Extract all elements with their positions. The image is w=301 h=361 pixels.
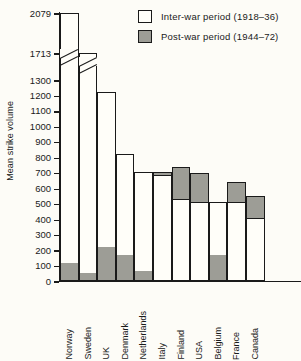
legend-swatch-post-war [138, 30, 152, 43]
bar-uk [97, 92, 116, 281]
y-tick-label: 1100 [5, 106, 51, 116]
segment-post-war [61, 263, 78, 279]
y-tick-label: 2079 [5, 9, 51, 19]
y-tick-mark [54, 235, 59, 236]
y-tick-mark [54, 173, 59, 174]
segment-post-war [228, 183, 245, 203]
x-axis-line [59, 281, 301, 282]
y-tick-mark [54, 80, 59, 81]
segment-post-war [191, 174, 208, 203]
segment-post-war [247, 197, 264, 219]
y-tick-label: 600 [5, 184, 51, 194]
y-tick-mark [54, 266, 59, 267]
bar-belgium [209, 202, 228, 281]
y-tick-label: 200 [5, 246, 51, 256]
y-tick-label: 0 [5, 277, 51, 287]
x-axis-label-text: Italy [153, 343, 172, 360]
y-tick-label: 1300 [5, 76, 51, 86]
y-tick-mark [54, 53, 59, 54]
x-axis-label-text: Canada [246, 328, 265, 360]
x-axis-label-italy: Italy [153, 286, 172, 360]
segment-post-war [80, 273, 97, 280]
x-axis-label-belgium: Belgium [209, 286, 228, 360]
x-axis-label-usa: USA [190, 286, 209, 360]
y-tick-label: 700 [5, 168, 51, 178]
segment-post-war [135, 271, 152, 280]
x-axis-label-netherlands: Netherlands [134, 286, 153, 360]
x-axis-label-text: France [227, 332, 246, 360]
y-tick-label: 300 [5, 230, 51, 240]
x-axis-label-text: Belgium [209, 327, 228, 360]
bar-denmark [116, 154, 135, 281]
x-axis-label-text: Netherlands [134, 311, 153, 360]
bar-finland [172, 167, 191, 281]
y-tick-label: 500 [5, 199, 51, 209]
legend-label-text: Post-war period (1944–72) [161, 31, 278, 42]
y-tick-mark [54, 111, 59, 112]
segment-post-war [154, 173, 171, 177]
segment-post-war [173, 168, 190, 200]
strike-volume-bar-chart: Mean strike volume 010020030040050060070… [0, 0, 301, 361]
segment-post-war [210, 255, 227, 280]
legend-item-post-war: Post-war period (1944–72) [138, 30, 279, 43]
x-axis-label-canada: Canada [246, 286, 265, 360]
x-axis-label-norway: Norway [60, 286, 79, 360]
bar-usa [190, 173, 209, 280]
bar-canada [246, 196, 265, 280]
y-tick-label: 1200 [5, 91, 51, 101]
x-axis-label-text: Sweden [79, 327, 98, 360]
x-axis-label-text: UK [97, 347, 116, 360]
bars-group [60, 13, 265, 281]
y-tick-mark [54, 189, 59, 190]
legend-item-inter-war: Inter-war period (1918–36) [138, 10, 279, 23]
x-axis-label-finland: Finland [172, 286, 191, 360]
x-axis-label-text: Norway [60, 329, 79, 360]
x-axis-label-sweden: Sweden [79, 286, 98, 360]
chart-legend: Inter-war period (1918–36)Post-war perio… [138, 10, 279, 43]
y-tick-mark [54, 96, 59, 97]
x-axis-label-uk: UK [97, 286, 116, 360]
x-axis-label-text: USA [190, 341, 209, 360]
bar-norway [60, 13, 79, 281]
x-axis-label-text: Finland [172, 330, 191, 360]
x-axis-category-labels: NorwaySwedenUKDenmarkNetherlandsItalyFin… [60, 286, 265, 360]
y-tick-mark [54, 250, 59, 251]
y-tick-mark [54, 142, 59, 143]
legend-swatch-inter-war [138, 10, 152, 23]
y-tick-label: 400 [5, 215, 51, 225]
bar-sweden [79, 53, 98, 281]
legend-label-text: Inter-war period (1918–36) [161, 11, 279, 22]
plot-area: 0100200300400500600700800900100011001200… [59, 12, 266, 282]
x-axis-label-denmark: Denmark [116, 286, 135, 360]
segment-post-war [98, 247, 115, 279]
y-tick-mark [54, 204, 59, 205]
y-tick-mark [54, 13, 59, 14]
y-tick-mark [54, 220, 59, 221]
segment-post-war [117, 255, 134, 280]
x-axis-label-text: Denmark [116, 323, 135, 360]
y-tick-mark [54, 127, 59, 128]
y-tick-label: 1000 [5, 122, 51, 132]
y-tick-mark [54, 158, 59, 159]
y-tick-label: 800 [5, 153, 51, 163]
y-tick-label: 900 [5, 137, 51, 147]
bar-france [227, 182, 246, 281]
y-tick-mark [54, 281, 59, 282]
x-axis-label-france: France [227, 286, 246, 360]
y-tick-label: 100 [5, 261, 51, 271]
bar-italy [153, 172, 172, 281]
y-tick-label: 1713 [5, 49, 51, 59]
bar-netherlands [134, 172, 153, 280]
